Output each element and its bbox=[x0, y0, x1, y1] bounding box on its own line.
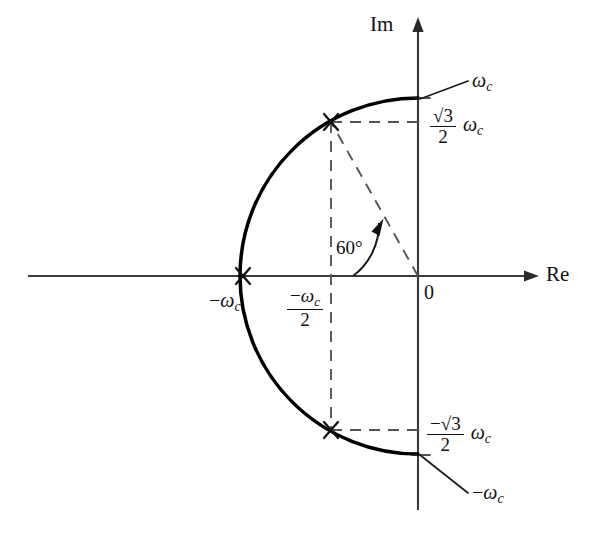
upper-fraction: √3 2 bbox=[430, 106, 456, 147]
half-fraction: −ωc 2 bbox=[287, 286, 323, 330]
angle-label: 60° bbox=[336, 238, 363, 257]
lower-fraction-omega-symbol: ω bbox=[471, 421, 485, 443]
upper-sqrt3-over-2-label: √3 2 ωc bbox=[430, 106, 483, 147]
half-fraction-numerator: −ωc bbox=[287, 286, 323, 309]
lower-sqrt3-over-2-label: −√3 2 ωc bbox=[427, 414, 491, 455]
half-fraction-omega: ω bbox=[301, 285, 314, 306]
half-fraction-sign: − bbox=[290, 285, 301, 306]
lower-fraction-denominator: 2 bbox=[427, 434, 464, 455]
real-axis-label: Re bbox=[546, 264, 569, 285]
upper-fraction-denominator: 2 bbox=[430, 126, 456, 147]
pole-diagram-svg bbox=[0, 0, 599, 537]
lower-fraction: −√3 2 bbox=[427, 414, 464, 455]
left-minus-omega-c-label: −ωc bbox=[209, 290, 241, 314]
lower-fraction-omega-subscript: c bbox=[485, 431, 491, 446]
imaginary-axis-label: Im bbox=[370, 14, 393, 35]
figure-canvas: Im Re 0 ωc √3 2 ωc −ωc −ωc 2 60° −√3 2 ω… bbox=[0, 0, 599, 537]
imag-axis-arrowhead bbox=[412, 17, 423, 32]
minus-omega-c-over-2-label: −ωc 2 bbox=[287, 286, 323, 330]
upper-omega-subscript: c bbox=[486, 79, 492, 94]
upper-omega-leader bbox=[420, 81, 468, 99]
left-omega-sign: − bbox=[209, 289, 220, 311]
angle-arrowhead bbox=[372, 219, 384, 237]
upper-fraction-numerator: √3 bbox=[430, 106, 456, 126]
lower-fraction-omega: ωc bbox=[471, 422, 491, 446]
left-omega-subscript: c bbox=[234, 299, 240, 314]
upper-fraction-omega-subscript: c bbox=[477, 123, 483, 138]
lower-omega-sign: − bbox=[472, 481, 483, 503]
upper-fraction-omega-symbol: ω bbox=[463, 113, 477, 135]
lower-fraction-numerator: −√3 bbox=[427, 414, 464, 434]
lower-omega-symbol: ω bbox=[483, 481, 497, 503]
upper-fraction-omega: ωc bbox=[463, 114, 483, 138]
lower-minus-omega-c-label: −ωc bbox=[472, 482, 504, 506]
half-fraction-denominator: 2 bbox=[287, 309, 323, 330]
lower-omega-subscript: c bbox=[497, 491, 503, 506]
upper-omega-c-label: ωc bbox=[472, 70, 492, 94]
left-omega-symbol: ω bbox=[220, 289, 234, 311]
real-axis-arrowhead bbox=[524, 270, 539, 281]
origin-label: 0 bbox=[424, 282, 434, 302]
lower-omega-leader bbox=[420, 455, 468, 493]
half-fraction-subscript: c bbox=[314, 294, 320, 309]
upper-omega-symbol: ω bbox=[472, 69, 486, 91]
